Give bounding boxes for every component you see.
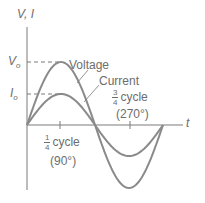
diagram-canvas: [0, 0, 205, 203]
current-label: Current: [99, 75, 139, 87]
x-axis-label: t: [186, 117, 189, 129]
voltage-label: Voltage: [69, 59, 109, 71]
vo-letter: V: [8, 54, 16, 68]
three-quarter-angle: (270°): [116, 108, 149, 120]
quarter-cycle-annotation: 14cycle: [44, 133, 80, 152]
vo-sub: o: [16, 61, 20, 70]
current-peak-label: Io: [10, 87, 18, 102]
quarter-angle: (90°): [50, 155, 76, 167]
three-quarter-fraction: 34: [112, 88, 118, 107]
voltage-peak-label: Vo: [8, 55, 20, 70]
current-leader-line: [84, 85, 99, 102]
three-quarter-cycle-annotation: 34cycle: [112, 88, 148, 107]
quarter-fraction: 14: [44, 133, 50, 152]
io-sub: o: [13, 93, 17, 102]
y-axis-label: V, I: [17, 8, 34, 20]
